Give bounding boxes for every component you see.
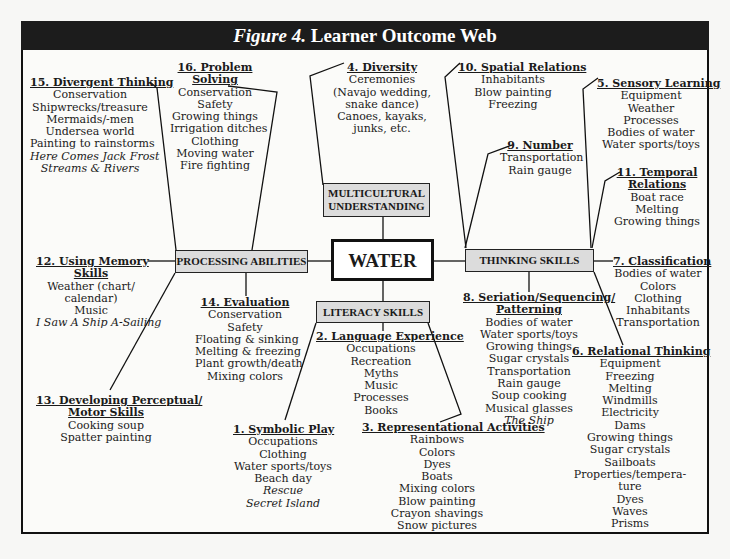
outcome-item: Rain gauge (500, 165, 580, 177)
outcome-problem-solving: 16. Problem Solving Conservation Safety … (170, 62, 260, 173)
hub-thinking-label: THINKING SKILLS (480, 254, 580, 267)
outcome-item: Electricity (572, 407, 688, 419)
book-title: Rescue (233, 485, 333, 497)
outcome-representational-activities: 3. Representational Activities Rainbows … (362, 422, 512, 533)
hub-literacy-skills: LITERACY SKILLS (316, 301, 430, 323)
outcome-using-memory-skills: 12. Using Memory Skills Weather (chart/ … (36, 256, 146, 330)
hub-multicultural-line2: UNDERSTANDING (328, 200, 424, 213)
outcome-spatial-relations: 10. Spatial Relations Inhabitants Blow p… (458, 62, 568, 111)
outcome-item: Snow pictures (362, 520, 512, 532)
outcome-item: Books (316, 405, 446, 417)
outcome-heading: Motor Skills (36, 407, 176, 419)
book-title: I Saw A Ship A-Sailing (36, 317, 146, 329)
outcome-item: ture (572, 481, 688, 493)
outcome-item: Irrigation ditches (170, 123, 260, 135)
outcome-temporal-relations: 11. Temporal Relations Boat race Melting… (612, 167, 702, 228)
outcome-item: Rainbows (362, 434, 512, 446)
outcome-item: Dyes (572, 494, 688, 506)
outcome-item: Conservation (195, 309, 295, 321)
outcome-item: junks, etc. (332, 123, 432, 135)
outcome-item: Prisms (572, 518, 688, 530)
outcome-item: Ceremonies (332, 74, 432, 86)
hub-multicultural-line1: MULTICULTURAL (328, 187, 425, 200)
outcome-relational-thinking: 6. Relational Thinking Equipment Freezin… (572, 346, 688, 530)
outcome-item: Equipment (597, 90, 705, 102)
outcome-item: Sugar crystals (572, 444, 688, 456)
book-title: Streams & Rivers (30, 163, 150, 175)
outcome-language-experience: 2. Language Experience Occupations Recre… (316, 331, 446, 417)
outcome-item: Occupations (316, 343, 446, 355)
outcome-heading: Relations (612, 179, 702, 191)
hub-thinking-skills: THINKING SKILLS (465, 249, 594, 272)
hub-processing-label: PROCESSING ABILITIES (177, 255, 307, 268)
outcome-item: Mixing colors (362, 483, 512, 495)
outcome-developing-perceptual-motor-skills: 13. Developing Perceptual/ Motor Skills … (36, 395, 176, 444)
hub-multicultural-understanding: MULTICULTURAL UNDERSTANDING (323, 183, 430, 217)
outcome-item: Transportation (613, 317, 703, 329)
outcome-item: Growing things (612, 216, 702, 228)
center-topic-water: WATER (331, 239, 434, 281)
outcome-heading: Solving (170, 74, 260, 86)
outcome-number: 9. Number Transportation Rain gauge (500, 140, 580, 177)
outcome-item: Equipment (572, 358, 688, 370)
hub-processing-abilities: PROCESSING ABILITIES (175, 250, 308, 273)
outcome-symbolic-play: 1. Symbolic Play Occupations Clothing Wa… (233, 424, 333, 510)
outcome-evaluation: 14. Evaluation Conservation Safety Float… (195, 297, 295, 383)
outcome-sensory-learning: 5. Sensory Learning Equipment Weather Pr… (597, 78, 705, 152)
outcome-item: Painting to rainstorms (30, 138, 150, 150)
outcome-item: Mixing colors (195, 371, 295, 383)
outcome-heading: Skills (36, 268, 146, 280)
outcome-classification: 7. Classification Bodies of water Colors… (613, 256, 703, 330)
outcome-item: Water sports/toys (597, 139, 705, 151)
outcome-item: Conservation (30, 89, 150, 101)
outcome-item: Processes (316, 392, 446, 404)
outcome-item: Freezing (458, 99, 568, 111)
outcome-item: Bodies of water (613, 268, 703, 280)
outcome-item: Fire fighting (170, 160, 260, 172)
outcome-item: Spatter painting (36, 432, 176, 444)
center-label: WATER (348, 254, 416, 267)
outcome-item: Plant growth/death (195, 358, 295, 370)
outcome-item: Transportation (500, 152, 580, 164)
book-title: Secret Island (233, 498, 333, 510)
outcome-divergent-thinking: 15. Divergent Thinking Conservation Ship… (30, 77, 150, 175)
hub-literacy-label: LITERACY SKILLS (323, 306, 423, 319)
outcome-heading: Patterning (463, 304, 595, 316)
outcome-diversity: 4. Diversity Ceremonies (Navajo wedding,… (332, 62, 432, 136)
outcome-item: Occupations (233, 436, 333, 448)
outcome-item: Inhabitants (458, 74, 568, 86)
